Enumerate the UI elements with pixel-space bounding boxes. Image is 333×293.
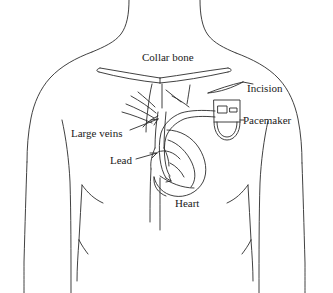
anatomy-illustration	[0, 0, 333, 293]
pacemaker-diagram: Collar bone Incision Pacemaker Large vei…	[0, 0, 333, 293]
incision	[208, 82, 243, 93]
collar-bone	[97, 68, 232, 83]
leader-lines	[130, 82, 253, 159]
lead-wire	[159, 110, 215, 182]
pacemaker-device	[214, 100, 240, 140]
label-lead: Lead	[110, 155, 132, 166]
label-large-veins: Large veins	[71, 128, 122, 139]
label-incision: Incision	[247, 83, 282, 94]
label-collar-bone: Collar bone	[142, 52, 194, 63]
label-pacemaker: Pacemaker	[243, 115, 291, 126]
chest-contour-lines	[77, 185, 253, 281]
heart	[154, 130, 206, 196]
large-veins	[143, 112, 169, 230]
label-heart: Heart	[175, 198, 199, 209]
